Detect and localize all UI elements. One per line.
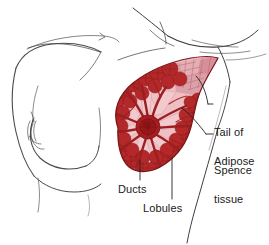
breast-anatomy-figure: Tail of Spence Adipose tissue Ducts Lobu… <box>0 0 269 245</box>
label-adipose-tissue-line1: Adipose <box>214 155 254 168</box>
breast-cross-section <box>103 54 222 176</box>
label-ducts: Ducts <box>118 183 147 196</box>
nipple-areola <box>136 115 160 139</box>
torso-profile <box>12 33 119 216</box>
label-adipose-tissue-line2: tissue <box>214 193 254 206</box>
label-lobules: Lobules <box>143 202 182 215</box>
label-adipose-tissue: Adipose tissue <box>214 130 254 230</box>
